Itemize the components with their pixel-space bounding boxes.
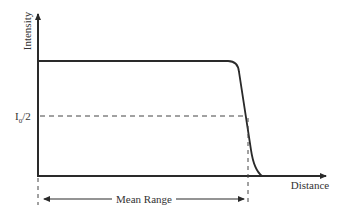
intensity-curve xyxy=(38,61,262,176)
x-axis-label: Distance xyxy=(291,179,330,191)
half-intensity-label: I0/2 xyxy=(15,110,31,125)
y-axis-label: Intensity xyxy=(21,11,33,50)
intensity-distance-diagram: Intensity Distance I0/2 Mean Range xyxy=(0,0,344,212)
mean-range-label: Mean Range xyxy=(116,193,172,205)
